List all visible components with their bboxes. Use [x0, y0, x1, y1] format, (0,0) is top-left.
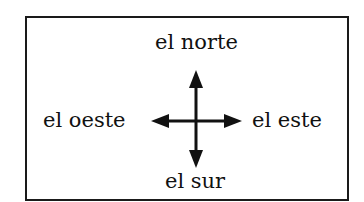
arrow-left-icon — [151, 114, 169, 128]
arrow-down-icon — [189, 150, 203, 168]
arrow-up-icon — [189, 70, 203, 88]
arrow-right-icon — [224, 114, 242, 128]
four-way-arrow-icon — [0, 0, 364, 202]
